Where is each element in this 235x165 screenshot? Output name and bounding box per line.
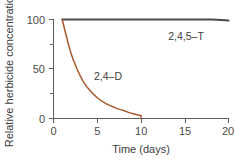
x-tick-label-15: 15 [179,125,191,137]
x-tick-label-0: 0 [50,125,56,137]
y-tick-label-100: 100 [27,14,45,26]
series-label-2-4-5-T: 2,4,5–T [168,30,204,42]
series-line-2-4-D [62,20,141,116]
x-tick-label-10: 10 [135,125,147,137]
x-tick-label-5: 5 [94,125,100,137]
chart-figure: 100 50 0 0 5 10 15 20 Time (days) Relati… [0,0,235,165]
series-line-2-4-5-T [62,19,228,20]
series-label-2-4-D: 2,4–D [94,70,122,82]
chart-plot-area: 100 50 0 0 5 10 15 20 Time (days) Relati… [0,0,235,165]
y-tick-label-50: 50 [33,63,45,75]
y-tick-label-0: 0 [39,113,45,125]
x-tick-label-20: 20 [222,125,234,137]
x-axis-title: Time (days) [112,143,170,155]
y-axis-title: Relative herbicide concentration [3,0,15,147]
